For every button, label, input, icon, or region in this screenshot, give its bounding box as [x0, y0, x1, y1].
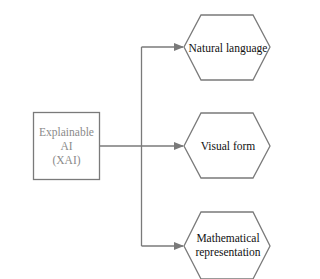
source-label-line2: (XAI) — [52, 153, 80, 167]
target-label-natural-language: Natural language — [186, 15, 270, 80]
natural-language-text: Natural language — [189, 41, 268, 55]
source-label-line1: Explainable AI — [34, 125, 99, 153]
source-label: Explainable AI (XAI) — [34, 113, 99, 179]
target-label-visual-form: Visual form — [186, 113, 270, 178]
target-label-mathematical-representation: Mathematical representation — [186, 212, 270, 278]
representation-text: representation — [195, 245, 260, 259]
mathematical-text: Mathematical — [196, 231, 259, 245]
visual-form-text: Visual form — [201, 139, 256, 153]
connectors — [100, 47, 184, 246]
